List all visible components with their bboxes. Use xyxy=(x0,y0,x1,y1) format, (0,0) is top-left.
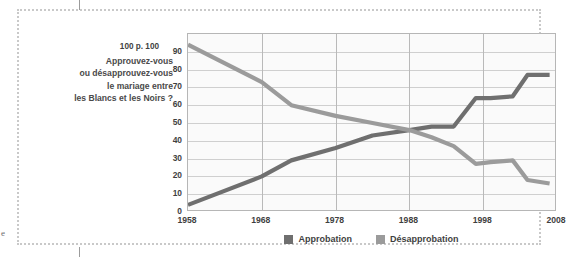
chart-legend: ApprobationDésapprobation xyxy=(187,234,556,244)
y-axis-tick-label: 40 xyxy=(173,135,182,145)
x-axis-tick-label: 1968 xyxy=(251,215,270,225)
y-axis-tick-label: 30 xyxy=(173,153,182,163)
series-line-approbation xyxy=(188,75,550,205)
chart-plot-area xyxy=(187,33,556,211)
y-axis-tick-label: 80 xyxy=(173,64,182,74)
question-line-3: le mariage entre xyxy=(47,80,173,92)
y-axis-tick-label: 90 xyxy=(173,46,182,56)
chart-question-caption: Approuvez-vous ou désapprouvez-vous le m… xyxy=(47,55,173,105)
y-axis-tick-label: 10 xyxy=(173,188,182,198)
y-axis-tick-label: 50 xyxy=(173,117,182,127)
question-line-1: Approuvez-vous xyxy=(47,55,173,67)
question-line-2: ou désapprouvez-vous xyxy=(47,67,173,79)
chart-series-lines xyxy=(188,34,556,211)
y-axis-tick-label: 60 xyxy=(173,99,182,109)
x-axis-tick-label: 1978 xyxy=(325,215,344,225)
page-edge-letter: e xyxy=(1,228,5,238)
y-axis-unit-label: 100 p. 100 xyxy=(111,42,159,51)
series-line-désapprobation xyxy=(188,45,550,184)
legend-item[interactable]: Désapprobation xyxy=(376,234,459,244)
question-line-4: les Blancs et les Noirs ? xyxy=(47,92,173,104)
legend-swatch-icon xyxy=(376,235,385,244)
crop-mark-bottom xyxy=(79,247,80,257)
crop-mark-top xyxy=(79,0,80,10)
y-axis-tick-label: 20 xyxy=(173,170,182,180)
legend-item[interactable]: Approbation xyxy=(284,234,352,244)
figure-frame: Approuvez-vous ou désapprouvez-vous le m… xyxy=(17,9,541,245)
chart-plot-wrapper: 0102030405060708090100 19581968197819881… xyxy=(187,33,556,211)
x-axis-tick-label: 1988 xyxy=(399,215,418,225)
y-axis-tick-label: 70 xyxy=(173,81,182,91)
legend-item-label: Désapprobation xyxy=(390,234,459,244)
x-axis-tick-label: 2008 xyxy=(546,215,565,225)
x-axis-tick-label: 1958 xyxy=(177,215,196,225)
x-axis-tick-label: 1998 xyxy=(473,215,492,225)
legend-item-label: Approbation xyxy=(298,234,352,244)
legend-swatch-icon xyxy=(284,235,293,244)
